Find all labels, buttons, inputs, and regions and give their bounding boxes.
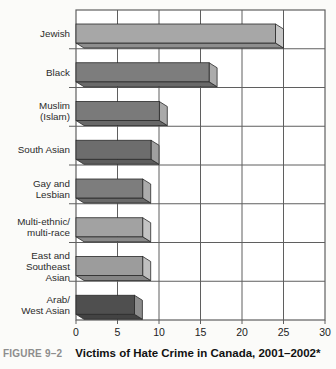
figure-9-2: 051015202530JewishBlackMuslim(Islam)Sout… [0,0,336,369]
category-label-muslim-islam: Muslim(Islam) [39,100,70,122]
category-label-arab-west-asian: Arab/West Asian [21,294,70,316]
category-label-east-and-southeast-asian: East andSoutheastAsian [26,250,70,283]
category-label-south-asian: South Asian [18,144,70,155]
hate-crime-chart-svg: 051015202530JewishBlackMuslim(Islam)Sout… [0,0,336,342]
category-label-gay-and-lesbian: Gay andLesbian [33,178,70,200]
bar-bottom-face [76,276,151,281]
bar-black [76,63,217,87]
tick-label-x-30: 30 [319,326,331,338]
category-label-black: Black [46,67,70,78]
tick-label-x-15: 15 [195,326,207,338]
bar-south-asian [76,140,159,164]
tick-label-x-10: 10 [153,326,165,338]
bar-front-face [76,179,143,198]
bar-front-face [76,102,159,121]
tick-label-x-25: 25 [278,326,290,338]
bar-bottom-face [76,43,284,48]
bar-front-face [76,218,143,237]
bar-gay-and-lesbian [76,179,151,203]
figure-title: Victims of Hate Crime in Canada, 2001–20… [75,347,320,359]
bar-east-and-southeast-asian [76,257,151,281]
bar-bottom-face [76,121,167,126]
bar-arab-west-asian [76,295,142,319]
category-label-multi-ethnic-multi-race: Multi-ethnic/multi-race [17,216,70,238]
bar-front-face [76,257,143,276]
bar-bottom-face [76,198,151,203]
bar-front-face [76,63,209,82]
bar-bottom-face [76,82,217,87]
bar-front-face [76,24,276,43]
tick-label-x-20: 20 [236,326,248,338]
bar-multi-ethnic-multi-race [76,218,151,242]
bar-bottom-face [76,314,142,319]
figure-number: FIGURE 9–2 [3,348,62,359]
category-label-jewish: Jewish [40,28,70,39]
tick-label-x-0: 0 [73,326,79,338]
bar-front-face [76,295,134,314]
bar-muslim-islam [76,102,167,126]
bar-bottom-face [76,237,151,242]
tick-label-x-5: 5 [115,326,121,338]
bar-jewish [76,24,284,48]
bar-front-face [76,140,151,159]
bar-bottom-face [76,159,159,164]
figure-caption: FIGURE 9–2 Victims of Hate Crime in Cana… [3,347,336,359]
